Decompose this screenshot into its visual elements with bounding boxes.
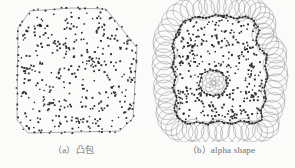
caption-panel-b: （b）alpha shape [148, 143, 295, 156]
caption-b-text: （b）alpha shape [188, 145, 256, 155]
alpha-shape-plot [148, 0, 295, 142]
alpha-shape-point-cloud [171, 14, 269, 126]
figure-root: （a）凸包 （b）alpha shape [0, 0, 295, 168]
convex-hull-svg [0, 0, 147, 142]
panel-alpha-shape: （b）alpha shape [148, 0, 295, 168]
panel-convex-hull: （a）凸包 [0, 0, 147, 168]
convex-hull-plot [0, 0, 147, 142]
caption-a-text: （a）凸包 [53, 145, 94, 155]
alpha-inner-hole-circles [202, 71, 225, 94]
caption-panel-a: （a）凸包 [0, 143, 147, 156]
alpha-shape-svg [148, 0, 295, 142]
